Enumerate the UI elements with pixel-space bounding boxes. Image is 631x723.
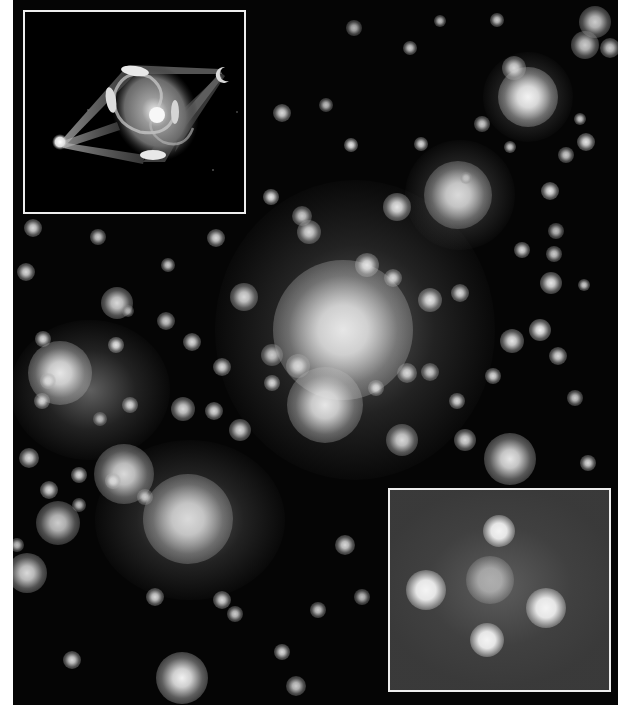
galaxy — [263, 189, 279, 205]
galaxy — [143, 474, 233, 564]
galaxy — [421, 363, 439, 381]
galaxy — [13, 538, 24, 552]
galaxy — [156, 652, 208, 704]
galaxy — [157, 312, 175, 330]
galaxy — [578, 279, 590, 291]
galaxy — [384, 269, 402, 287]
galaxy — [574, 113, 586, 125]
galaxy — [335, 535, 355, 555]
galaxy — [346, 20, 362, 36]
galaxy — [261, 344, 283, 366]
galaxy — [484, 433, 536, 485]
galaxy — [34, 393, 50, 409]
galaxy — [434, 15, 446, 27]
galaxy — [368, 380, 384, 396]
galaxy — [40, 373, 56, 389]
galaxy — [286, 354, 310, 378]
galaxy — [418, 288, 442, 312]
lensing-diagram-inset — [23, 10, 246, 214]
galaxy — [386, 424, 418, 456]
galaxy — [460, 172, 472, 184]
galaxy — [403, 41, 417, 55]
galaxy — [24, 219, 42, 237]
galaxy — [541, 182, 559, 200]
galaxy — [383, 193, 411, 221]
galaxy — [297, 220, 321, 244]
galaxy — [286, 676, 306, 696]
gravitational-lens-illustration — [25, 12, 244, 212]
galaxy — [354, 589, 370, 605]
galaxy — [72, 498, 86, 512]
galaxy — [213, 591, 231, 609]
galaxy — [514, 242, 530, 258]
galaxy — [108, 337, 124, 353]
galaxy — [449, 393, 465, 409]
galaxy — [474, 116, 490, 132]
galaxy — [424, 161, 492, 229]
galaxy — [414, 137, 428, 151]
galaxy — [546, 246, 562, 262]
galaxy — [90, 229, 106, 245]
lensed-quasar-image — [526, 588, 566, 628]
galaxy — [183, 333, 201, 351]
galaxy — [146, 588, 164, 606]
galaxy — [17, 263, 35, 281]
galaxy — [105, 473, 121, 489]
galaxy — [502, 56, 526, 80]
lensed-quasar-image — [470, 623, 504, 657]
galaxy — [35, 331, 51, 347]
galaxy — [397, 363, 417, 383]
galaxy — [355, 253, 379, 277]
galaxy — [571, 31, 599, 59]
galaxy — [319, 98, 333, 112]
galaxy — [577, 133, 595, 151]
lensing-galaxy-core — [466, 556, 514, 604]
galaxy — [227, 606, 243, 622]
galaxy — [310, 602, 326, 618]
galaxy — [122, 397, 138, 413]
galaxy — [549, 347, 567, 365]
galaxy — [580, 455, 596, 471]
galaxy — [567, 390, 583, 406]
galaxy — [71, 467, 87, 483]
galaxy — [287, 367, 363, 443]
galaxy — [454, 429, 476, 451]
galaxy — [161, 258, 175, 272]
galaxy — [264, 375, 280, 391]
galaxy — [230, 283, 258, 311]
galaxy — [600, 38, 618, 58]
galaxy — [13, 553, 47, 593]
lensed-quasar-image — [406, 570, 446, 610]
galaxy — [274, 644, 290, 660]
galaxy — [122, 305, 134, 317]
galaxy — [63, 651, 81, 669]
galaxy — [40, 481, 58, 499]
galaxy — [93, 412, 107, 426]
galaxy — [213, 358, 231, 376]
galaxy — [344, 138, 358, 152]
galaxy — [500, 329, 524, 353]
galaxy — [548, 223, 564, 239]
galaxy — [171, 397, 195, 421]
galaxy — [529, 319, 551, 341]
galaxy — [558, 147, 574, 163]
lensed-quasar-image — [483, 515, 515, 547]
galaxy — [273, 104, 291, 122]
galaxy — [485, 368, 501, 384]
galaxy — [451, 284, 469, 302]
galaxy — [205, 402, 223, 420]
galaxy-cluster-photo — [13, 0, 618, 705]
galaxy — [19, 448, 39, 468]
einstein-cross-inset — [388, 488, 611, 692]
galaxy — [504, 141, 516, 153]
galaxy — [137, 489, 153, 505]
galaxy — [490, 13, 504, 27]
galaxy — [540, 272, 562, 294]
galaxy — [229, 419, 251, 441]
galaxy — [207, 229, 225, 247]
